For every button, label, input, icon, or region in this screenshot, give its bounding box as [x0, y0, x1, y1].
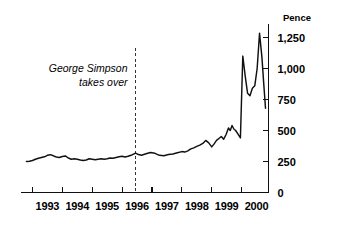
x-axis-tick-label: 1997	[155, 200, 179, 212]
x-axis-tick-label: 1996	[125, 200, 149, 212]
y-axis-unit-label: Pence	[283, 12, 311, 23]
y-axis-tick-label: 0	[278, 187, 284, 199]
x-axis-tick-label: 1999	[215, 200, 239, 212]
x-axis-tick-label: 1994	[65, 200, 90, 212]
y-axis-tick-label: 500	[278, 125, 296, 137]
y-axis-tick-label: 1,250	[278, 32, 306, 44]
x-axis-tick-label: 1993	[36, 200, 60, 212]
annotation-line-2: takes over	[79, 76, 128, 88]
x-axis-tick-label: 2000	[245, 200, 269, 212]
y-axis-tick-label: 1,000	[278, 63, 306, 75]
x-axis-tick-label: 1995	[95, 200, 119, 212]
y-axis-tick-label: 750	[278, 94, 296, 106]
x-axis-tick-label: 1998	[185, 200, 209, 212]
share-price-line-chart: 02505007501,0001,250 1993199419951996199…	[0, 0, 344, 232]
annotation-line-1: George Simpson	[49, 62, 128, 74]
y-axis-tick-label: 250	[278, 156, 296, 168]
chart-container: 02505007501,0001,250 1993199419951996199…	[0, 0, 344, 232]
